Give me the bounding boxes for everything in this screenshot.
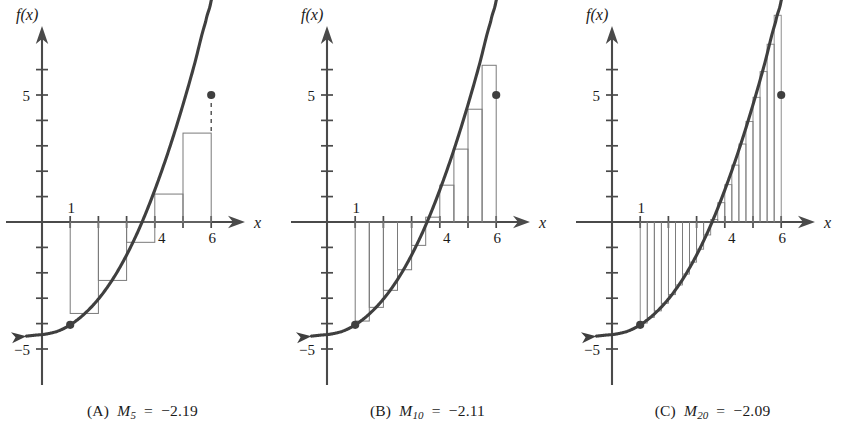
panel-a-plot: 1465−5f(x)x [0, 0, 285, 400]
x-axis-label: x [823, 214, 831, 231]
riemann-rectangle [155, 194, 183, 222]
riemann-rectangle [774, 15, 781, 222]
panel-c-caption-equals: = [716, 402, 725, 419]
riemann-rectangle [683, 222, 690, 274]
tick-label: −5 [299, 342, 315, 358]
tick-label: 6 [493, 230, 501, 246]
panel-c-caption-tag: (C) [655, 402, 676, 419]
function-curve [26, 0, 224, 336]
tick-label: 1 [67, 200, 75, 216]
panel-b-caption: (B) M10 = −2.11 [285, 402, 570, 421]
tick-label: 1 [637, 200, 645, 216]
endpoint-dot [66, 321, 74, 329]
tick-label: 5 [23, 88, 31, 104]
riemann-rectangle [440, 185, 454, 222]
panel-c-caption-value: −2.09 [733, 402, 770, 419]
panel-b-caption-equals: = [432, 402, 441, 419]
endpoint-dot [492, 91, 500, 99]
riemann-rectangle [468, 109, 482, 222]
riemann-rectangle [183, 133, 211, 222]
panel-b: 1465−5f(x)x (B) M10 = −2.11 [285, 0, 570, 439]
tick-label: 6 [778, 230, 786, 246]
tick-label: 4 [443, 230, 451, 246]
y-axis-label: f(x) [586, 6, 608, 24]
riemann-rectangle [746, 121, 753, 222]
tick-label: 1 [352, 200, 360, 216]
riemann-rectangle [454, 149, 468, 222]
riemann-rectangle [640, 222, 647, 323]
riemann-rectangle [355, 222, 369, 321]
y-axis-label: f(x) [301, 6, 323, 24]
panel-a-caption-equals: = [144, 402, 153, 419]
tick-label: 5 [593, 88, 601, 104]
riemann-rectangle [654, 222, 661, 311]
panel-a-caption: (A) M5 = −2.19 [0, 402, 285, 421]
riemann-rectangle [753, 97, 760, 222]
riemann-rectangle [70, 222, 98, 313]
riemann-rectangle [760, 72, 767, 222]
function-curve [596, 0, 794, 336]
riemann-sum-figure: 1465−5f(x)x (A) M5 = −2.19 1465−5f(x)x (… [0, 0, 853, 439]
endpoint-dot [207, 91, 215, 99]
riemann-rectangle [398, 222, 412, 270]
panel-b-caption-symbol: M [399, 402, 412, 419]
x-axis-label: x [253, 214, 261, 231]
riemann-rectangle [369, 222, 383, 307]
panel-c: 1465−5f(x)x (C) M20 = −2.09 [570, 0, 853, 439]
riemann-rectangle [732, 165, 739, 222]
panel-b-caption-value: −2.11 [449, 402, 485, 419]
endpoint-dot [777, 91, 785, 99]
panel-c-caption-symbol: M [684, 402, 697, 419]
riemann-rectangle [661, 222, 668, 303]
y-axis-label: f(x) [16, 6, 38, 24]
tick-label: 4 [728, 230, 736, 246]
tick-label: 4 [158, 230, 166, 246]
riemann-rectangle [98, 222, 126, 280]
panel-a-caption-value: −2.19 [161, 402, 198, 419]
endpoint-dot [636, 321, 644, 329]
panel-b-caption-tag: (B) [370, 402, 391, 419]
endpoint-dot [351, 321, 359, 329]
riemann-rectangle [668, 222, 675, 295]
tick-label: 6 [208, 230, 216, 246]
panel-c-caption: (C) M20 = −2.09 [570, 402, 853, 421]
riemann-rectangle [482, 65, 496, 222]
riemann-rectangle [739, 144, 746, 222]
riemann-rectangle [675, 222, 682, 285]
panel-b-plot: 1465−5f(x)x [285, 0, 570, 400]
tick-label: −5 [14, 342, 30, 358]
tick-label: −5 [584, 342, 600, 358]
tick-label: 5 [308, 88, 316, 104]
panel-c-plot: 1465−5f(x)x [570, 0, 853, 400]
x-axis-label: x [538, 214, 546, 231]
panel-a-caption-symbol: M [117, 402, 130, 419]
panel-a: 1465−5f(x)x (A) M5 = −2.19 [0, 0, 285, 439]
panel-c-caption-subscript: 20 [697, 409, 708, 421]
riemann-rectangle [767, 44, 774, 222]
panel-b-caption-subscript: 10 [412, 409, 423, 421]
midpoint-rectangles [640, 15, 781, 323]
riemann-rectangle [647, 222, 654, 318]
panel-a-caption-subscript: 5 [130, 409, 136, 421]
function-curve [311, 0, 509, 336]
panel-a-caption-tag: (A) [87, 402, 109, 419]
midpoint-rectangles [355, 65, 496, 321]
